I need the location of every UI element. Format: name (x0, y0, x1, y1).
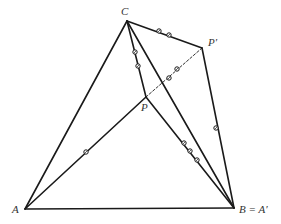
segment-c-b (127, 21, 234, 208)
tick-marks-group (84, 29, 218, 162)
segments-group (25, 21, 234, 209)
segment-p-p-prime (146, 48, 202, 97)
label-a: A (11, 203, 19, 215)
label-p-prime: P′ (207, 36, 218, 48)
label-b-equals-a-prime: B = A′ (239, 203, 268, 215)
segment-a-b (25, 208, 234, 209)
label-c: C (121, 5, 129, 17)
segment-c-p-prime (127, 21, 202, 48)
geometry-diagram: A B = A′ C P P′ (0, 0, 281, 224)
label-p: P (140, 101, 148, 113)
segment-a-c (25, 21, 127, 209)
segment-c-p (127, 21, 146, 97)
